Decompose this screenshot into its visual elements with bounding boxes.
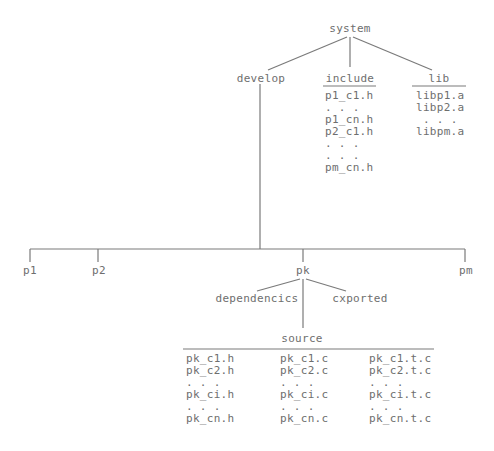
source-col-headers: pk_c1.h pk_c2.h . . . pk_ci.h . . . pk_c… — [186, 353, 234, 425]
edge-system-lib — [353, 37, 432, 70]
node-pk: pk — [296, 265, 310, 277]
node-pm: pm — [459, 265, 473, 277]
source-file: pk_cn.t.c — [369, 413, 431, 425]
edge-system-develop — [268, 37, 347, 70]
edge-pk-cxported — [306, 279, 346, 291]
source-file: pk_cn.c — [280, 413, 328, 425]
lib-file: libpm.a — [416, 126, 464, 138]
include-file: pm_cn.h — [325, 162, 373, 174]
source-file: pk_cn.h — [186, 413, 234, 425]
source-col-tests: pk_c1.t.c pk_c2.t.c . . . pk_ci.t.c . . … — [369, 353, 431, 425]
node-dependencics: dependencics — [215, 293, 298, 305]
node-cxported: cxported — [332, 293, 387, 305]
node-source: source — [281, 333, 323, 345]
source-col-c: pk_c1.c pk_c2.c . . . pk_ci.c . . . pk_c… — [280, 353, 328, 425]
edge-pk-dependencics — [257, 279, 300, 291]
node-lib: lib — [429, 73, 450, 85]
lib-file-list: libp1.a libp2.a . . . libpm.a — [416, 90, 464, 138]
node-p2: p2 — [92, 265, 106, 277]
node-develop: develop — [237, 73, 285, 85]
node-include: include — [326, 73, 374, 85]
include-file-list: p1_c1.h . . . p1_cn.h p2_c1.h . . . . . … — [325, 90, 373, 174]
node-p1: p1 — [23, 265, 37, 277]
node-system: system — [329, 23, 371, 35]
